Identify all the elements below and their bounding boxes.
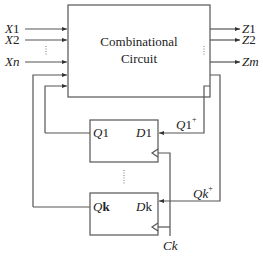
input-xn: Xn	[4, 54, 67, 69]
output-label: Z2	[242, 32, 256, 47]
q1-label: Q1	[93, 125, 109, 140]
dk-label: Dk	[135, 199, 152, 214]
q1-next-label: Q1+	[176, 115, 197, 132]
feedback-line-qk	[33, 75, 67, 207]
qk-label: Qk	[93, 199, 110, 214]
flipflop-k: Qk Dk	[90, 193, 158, 235]
d1-label: D1	[135, 125, 152, 140]
clock-signal: Ck	[158, 153, 178, 253]
output-z2: Z2	[210, 32, 256, 47]
combinational-circuit-block: Combinational Circuit	[68, 5, 210, 97]
qk-next-label: Qk+	[193, 184, 213, 201]
input-label: Xn	[4, 54, 19, 69]
input-x2: X2	[4, 32, 67, 47]
block-label-line2: Circuit	[121, 51, 157, 66]
output-zm: Zm	[210, 54, 259, 69]
clock-label: Ck	[163, 238, 178, 253]
clock-line	[158, 153, 170, 236]
block-label-line1: Combinational	[100, 34, 178, 49]
input-label: X2	[4, 32, 19, 47]
flipflop-1: Q1 D1	[90, 120, 158, 162]
sequential-circuit-diagram: Combinational Circuit X1 X2 Xn Z1 Z2 Zm …	[0, 0, 263, 256]
output-label: Zm	[242, 54, 259, 69]
feedback-line-q1	[45, 86, 67, 133]
